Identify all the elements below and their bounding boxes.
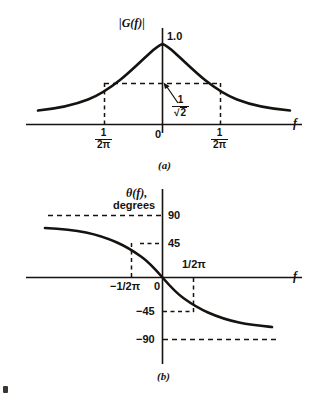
- panel-a-caption: (a): [158, 160, 171, 171]
- figure-container: |G(f)| 1.0 f 1 2π 0 1 2π 1 √2 (a) θ(f), …: [0, 0, 328, 398]
- fraction-numerator: 1: [211, 128, 228, 140]
- panel-b-graphics: [26, 189, 302, 364]
- fraction-numerator: 1: [172, 95, 189, 107]
- fraction-denominator: 2π: [211, 140, 228, 151]
- panel-a-x-axis-label: f: [293, 117, 297, 129]
- panel-b-caption: (b): [157, 371, 170, 382]
- panel-b-y-axis-label-line1: θ(f),: [126, 187, 147, 199]
- fraction-denominator: √2: [172, 107, 189, 119]
- panel-b-y-axis-label-line2: degrees: [113, 200, 155, 211]
- panel-b-x-tick-left: −1/2π: [110, 281, 140, 292]
- panel-b-y-tick-90: 90: [168, 210, 180, 221]
- panel-b-y-tick-minus-90: −90: [136, 334, 155, 345]
- scan-artifact-smudge: [3, 386, 8, 393]
- figure-svg: [0, 0, 328, 398]
- fraction-one-over-two-pi-left: 1 2π: [95, 128, 112, 150]
- panel-a-x-tick-right: 1 2π: [211, 128, 228, 150]
- panel-b-x-tick-right: 1/2π: [182, 259, 206, 270]
- panel-b-x-axis-label: f: [293, 270, 297, 282]
- panel-b-y-tick-minus-45: −45: [136, 306, 155, 317]
- fraction-one-over-two-pi-right: 1 2π: [211, 128, 228, 150]
- panel-b-y-tick-45: 45: [168, 238, 180, 249]
- panel-a-y-tick-1-0: 1.0: [167, 31, 182, 42]
- fraction-numerator: 1: [95, 128, 112, 140]
- panel-a-annotation-one-over-sqrt-two: 1 √2: [172, 95, 189, 118]
- panel-a-x-tick-zero: 0: [155, 129, 161, 140]
- fraction-one-over-sqrt-two: 1 √2: [172, 95, 189, 118]
- panel-a-x-tick-left: 1 2π: [95, 128, 112, 150]
- panel-a-y-axis-label: |G(f)|: [119, 17, 145, 29]
- panel-b-x-tick-zero: 0: [154, 281, 160, 292]
- panel-a-graphics: [26, 28, 302, 133]
- panel-a-magnitude-curve: [38, 44, 290, 111]
- fraction-denominator: 2π: [95, 140, 112, 151]
